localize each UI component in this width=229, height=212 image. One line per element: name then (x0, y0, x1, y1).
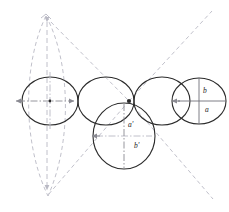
diagonal-lower-right (129, 101, 213, 199)
diagonal-upper-right (129, 11, 212, 101)
ellipse-4-right (172, 78, 226, 124)
geometry-figure: b a a' b' (0, 0, 229, 212)
label-b-prime: b' (134, 141, 140, 150)
ellipse-2-outline (78, 77, 134, 125)
label-a-prime: a' (128, 120, 134, 129)
ellipse-1-center-dot (49, 100, 52, 103)
dashed-lens-envelope (29, 16, 66, 196)
label-a: a (205, 105, 209, 114)
dashed-diagonals (41, 11, 213, 199)
lower-circle (92, 103, 155, 169)
geometry-canvas: b a a' b' (0, 0, 229, 212)
diagonal-apex-to-node (46, 17, 129, 101)
diagonal-node-to-bottom-apex (48, 101, 129, 195)
label-b: b (203, 86, 207, 95)
junction-node-dot (127, 99, 131, 103)
ellipse-2 (78, 77, 134, 125)
lens-left-arc (29, 16, 48, 196)
central-tangency-node (127, 99, 131, 103)
lens-right-arc (46, 16, 65, 196)
